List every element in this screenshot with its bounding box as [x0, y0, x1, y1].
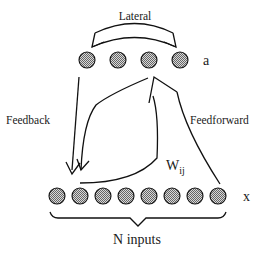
- output-node: [141, 52, 157, 68]
- input-node: [187, 188, 203, 204]
- feedforward-curve-arrow: [80, 77, 177, 183]
- input-layer: [49, 188, 226, 204]
- feedforward-label: Feedforward: [190, 114, 249, 126]
- inputs-label: N inputs: [113, 232, 161, 247]
- input-node: [118, 188, 134, 204]
- inputs-brace: [50, 212, 226, 226]
- input-node: [164, 188, 180, 204]
- output-layer-label: a: [203, 53, 210, 68]
- output-layer: [79, 52, 188, 68]
- weights-label: Wij: [166, 158, 185, 176]
- output-node: [110, 52, 126, 68]
- input-node: [95, 188, 111, 204]
- curved-feedback-arrow: [77, 78, 148, 170]
- output-node: [79, 52, 95, 68]
- input-node: [49, 188, 65, 204]
- lateral-arrow: [92, 24, 176, 48]
- input-node: [72, 188, 88, 204]
- feedback-label: Feedback: [6, 114, 50, 126]
- input-node: [210, 188, 226, 204]
- network-diagram: Lateral a Feedback: [0, 0, 268, 255]
- input-node: [141, 188, 157, 204]
- lateral-label: Lateral: [119, 10, 152, 22]
- output-node: [172, 52, 188, 68]
- input-layer-label: x: [243, 189, 250, 204]
- feedback-arrow: [66, 77, 80, 174]
